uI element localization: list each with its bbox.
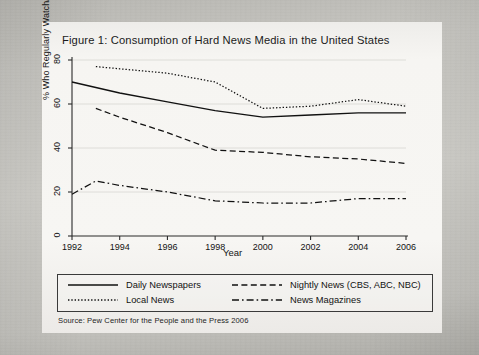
y-tick-label-80: 80 <box>52 50 62 68</box>
chart-title: Figure 1: Consumption of Hard News Media… <box>62 34 390 46</box>
source-note: Source: Pew Center for the People and th… <box>58 316 249 325</box>
x-tick-label-1996: 1996 <box>157 242 177 252</box>
y-tick-label-40: 40 <box>52 138 62 156</box>
legend-item-news-magazines: News Magazines <box>290 295 361 305</box>
legend-item-daily-newspapers: Daily Newspapers <box>126 280 201 290</box>
y-tick-label-0: 0 <box>52 226 62 244</box>
x-tick-label-1994: 1994 <box>110 242 130 252</box>
legend: Daily Newspapers Local News Nightly News… <box>57 274 433 312</box>
legend-item-local-news: Local News <box>126 295 174 305</box>
x-tick-label-2006: 2006 <box>396 242 416 252</box>
x-tick-label-2004: 2004 <box>348 242 368 252</box>
x-axis-title: Year <box>223 247 242 258</box>
x-tick-label-2000: 2000 <box>253 242 273 252</box>
y-axis-title: % Who Regularly Watch/Read <box>41 0 51 100</box>
legend-item-nightly-news: Nightly News (CBS, ABC, NBC) <box>290 280 421 290</box>
y-tick-label-20: 20 <box>52 182 62 200</box>
y-tick-label-60: 60 <box>52 94 62 112</box>
x-tick-label-2002: 2002 <box>301 242 321 252</box>
x-tick-label-1998: 1998 <box>205 242 225 252</box>
x-tick-label-1992: 1992 <box>62 242 82 252</box>
